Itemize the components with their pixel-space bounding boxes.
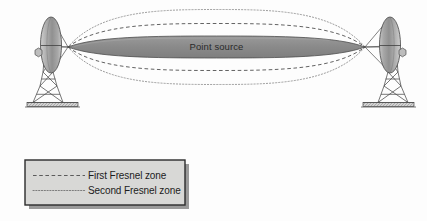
legend-box xyxy=(25,160,185,205)
fresnel-zone-diagram: Point source xyxy=(0,0,427,221)
legend-label-first-fresnel-zone: First Fresnel zone xyxy=(88,170,167,181)
right-antenna-base xyxy=(361,103,416,108)
legend-label-second-fresnel-zone: Second Fresnel zone xyxy=(88,185,181,196)
left-antenna xyxy=(25,17,80,107)
right-antenna-dish xyxy=(380,17,401,73)
point-source-label: Point source xyxy=(189,41,243,52)
left-antenna-base xyxy=(25,103,80,108)
left-antenna-dish xyxy=(41,17,62,73)
right-antenna xyxy=(361,17,416,107)
legend: First Fresnel zone Second Fresnel zone xyxy=(25,160,189,209)
